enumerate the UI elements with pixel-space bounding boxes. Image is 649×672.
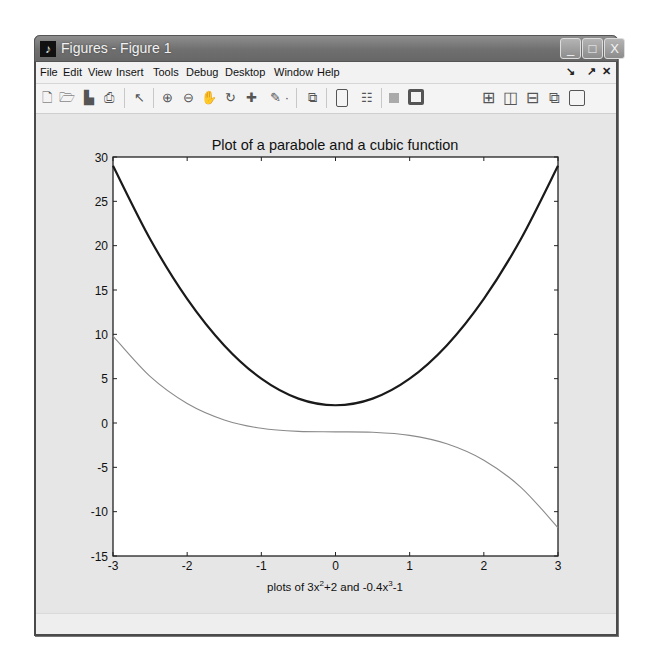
- x-tick-label: 0: [332, 559, 339, 573]
- y-tick-label: 0: [101, 417, 108, 431]
- y-tick-label: 20: [95, 239, 109, 253]
- y-tick-label: 10: [95, 328, 109, 342]
- y-tick-label: 30: [95, 151, 109, 165]
- y-tick-label: -10: [91, 505, 109, 519]
- y-tick-label: 5: [101, 372, 108, 386]
- y-tick-label: -5: [97, 461, 108, 475]
- line-chart: Plot of a parabole and a cubic function …: [0, 0, 649, 672]
- y-tick-label: -15: [91, 550, 109, 564]
- y-tick-label: 15: [95, 284, 109, 298]
- x-axis-label: plots of 3x2+2 and -0.4x3-1: [267, 579, 403, 593]
- x-tick-label: 1: [406, 559, 413, 573]
- x-tick-label: 3: [555, 559, 562, 573]
- x-tick-label: -2: [182, 559, 193, 573]
- plot-area: [113, 157, 558, 556]
- x-tick-label: 2: [480, 559, 487, 573]
- x-tick-label: -1: [256, 559, 267, 573]
- y-tick-label: 25: [95, 195, 109, 209]
- chart-title: Plot of a parabole and a cubic function: [212, 137, 459, 153]
- x-tick-label: -3: [108, 559, 119, 573]
